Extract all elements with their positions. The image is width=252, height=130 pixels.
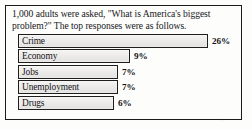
bar-row: Drugs 6% (18, 96, 236, 110)
bar-label-economy: Economy (22, 49, 57, 63)
bar-row: Crime 26% (18, 34, 236, 48)
bar-crime (18, 34, 208, 48)
bar-chart-plot-area: Crime 26% Economy 9% Jobs 7% Unemploymen… (18, 34, 236, 114)
bar-value-economy: 9% (134, 49, 148, 63)
bar-label-crime: Crime (22, 34, 45, 48)
bar-value-unemployment: 7% (122, 80, 136, 94)
figure-caption: 1,000 adults were asked, "What is Americ… (12, 8, 230, 31)
bar-value-crime: 26% (212, 34, 230, 48)
bar-label-unemployment: Unemployment (22, 80, 79, 94)
survey-bar-chart-figure: 1,000 adults were asked, "What is Americ… (0, 0, 252, 130)
bar-value-drugs: 6% (118, 96, 132, 110)
bar-row: Economy 9% (18, 49, 236, 63)
bar-label-jobs: Jobs (22, 65, 38, 79)
bar-label-drugs: Drugs (22, 96, 44, 110)
bar-value-jobs: 7% (122, 65, 136, 79)
bar-row: Unemployment 7% (18, 80, 236, 94)
bar-row: Jobs 7% (18, 65, 236, 79)
